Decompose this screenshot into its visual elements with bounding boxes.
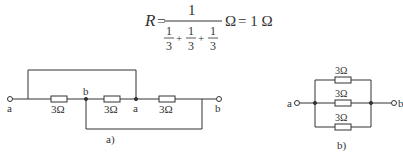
- plus-2: +: [198, 32, 204, 44]
- caption-b: b): [337, 139, 347, 152]
- terminal-b: [392, 101, 397, 106]
- node-b-label: b: [83, 85, 89, 97]
- node-a: [134, 97, 137, 100]
- terminal-b: [217, 97, 222, 102]
- terminal-a: [8, 97, 13, 102]
- terminal-a: [295, 101, 300, 106]
- node-a-label: a: [133, 102, 138, 114]
- den-term-1-num: 1: [166, 24, 172, 38]
- resistor-top: [335, 77, 351, 83]
- formula-lhs: R: [144, 11, 156, 30]
- resistor-1: [51, 96, 67, 102]
- node-right: [369, 101, 372, 104]
- terminal-b-label: b: [215, 102, 221, 114]
- node-b: [84, 97, 87, 100]
- formula-result: = 1 Ω: [238, 13, 273, 29]
- formula-unit: Ω: [225, 13, 236, 29]
- resistor-middle: [335, 100, 351, 106]
- resistor-bottom-label: 3Ω: [335, 112, 347, 123]
- resistor-bottom: [335, 124, 351, 130]
- formula-numerator: 1: [188, 2, 196, 18]
- den-term-1-den: 3: [166, 39, 172, 53]
- terminal-a-label: a: [287, 97, 292, 109]
- node-left: [313, 101, 316, 104]
- den-term-2-den: 3: [188, 39, 194, 53]
- resistor-3-label: 3Ω: [159, 103, 173, 115]
- formula: R = 1 1 3 + 1 3 + 1 3 Ω = 1 Ω: [144, 2, 273, 53]
- resistor-3: [159, 96, 175, 102]
- circuit-a-labels: a b b a 3Ω 3Ω 3Ω a): [7, 85, 221, 146]
- den-term-3-den: 3: [210, 39, 216, 53]
- den-term-3-num: 1: [210, 24, 216, 38]
- resistor-middle-label: 3Ω: [335, 88, 347, 99]
- resistor-1-label: 3Ω: [51, 103, 65, 115]
- resistor-2: [104, 96, 120, 102]
- caption-a: a): [106, 133, 115, 146]
- top-loop-wire: [28, 70, 136, 99]
- diagram-canvas: R = 1 1 3 + 1 3 + 1 3 Ω = 1 Ω: [0, 0, 403, 158]
- plus-1: +: [176, 32, 182, 44]
- circuit-a: [8, 70, 222, 129]
- terminal-a-label: a: [7, 102, 12, 114]
- resistor-2-label: 3Ω: [104, 103, 118, 115]
- den-term-2-num: 1: [188, 24, 194, 38]
- resistor-top-label: 3Ω: [335, 65, 347, 76]
- terminal-b-label: b: [398, 97, 403, 109]
